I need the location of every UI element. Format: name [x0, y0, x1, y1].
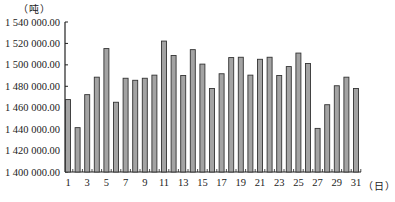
x-tick-label: 1: [65, 177, 70, 188]
bar: [162, 41, 167, 172]
bar: [133, 80, 138, 172]
bar: [200, 64, 205, 172]
x-tick-label: 5: [104, 177, 109, 188]
bar-chart: 1 400 000.001 420 000.001 440 000.001 46…: [0, 0, 395, 202]
bar: [142, 78, 147, 172]
y-axis: 1 400 000.001 420 000.001 440 000.001 46…: [5, 17, 68, 178]
x-tick-label: 19: [236, 177, 247, 188]
bar: [238, 57, 243, 172]
x-tick-label: 31: [351, 177, 362, 188]
bar: [229, 58, 234, 172]
bar: [104, 49, 109, 172]
bar: [267, 57, 272, 172]
bar: [210, 89, 215, 172]
bar: [85, 95, 90, 172]
bar: [248, 75, 253, 172]
y-tick-label: 1 400 000.00: [5, 167, 60, 178]
y-tick-label: 1 540 000.00: [5, 17, 60, 28]
bar: [306, 63, 311, 172]
x-tick-label: 3: [85, 177, 90, 188]
y-tick-label: 1 460 000.00: [5, 102, 60, 113]
y-tick-label: 1 480 000.00: [5, 81, 60, 92]
bar: [152, 75, 157, 172]
bar: [315, 128, 320, 172]
y-tick-label: 1 420 000.00: [5, 145, 60, 156]
bar: [258, 59, 263, 172]
bar: [190, 50, 195, 172]
bar: [334, 86, 339, 172]
bar: [219, 74, 224, 172]
x-tick-label: 11: [159, 177, 169, 188]
bar: [325, 105, 330, 172]
x-tick-label: 9: [142, 177, 147, 188]
x-tick-label: 21: [255, 177, 266, 188]
x-tick-label: 17: [216, 177, 227, 188]
y-tick-label: 1 500 000.00: [5, 59, 60, 70]
bar: [286, 67, 291, 172]
bar: [75, 128, 80, 172]
x-tick-label: 7: [123, 177, 128, 188]
bar: [171, 56, 176, 172]
bar: [354, 89, 359, 172]
bar: [277, 75, 282, 172]
y-tick-label: 1 440 000.00: [5, 124, 60, 135]
bar: [94, 77, 99, 172]
x-tick-label: 15: [197, 177, 208, 188]
x-tick-label: 23: [274, 177, 285, 188]
y-tick-label: 1 520 000.00: [5, 38, 60, 49]
x-tick-label: 27: [312, 177, 323, 188]
x-tick-label: 29: [332, 177, 343, 188]
x-tick-label: 25: [293, 177, 304, 188]
bar: [181, 75, 186, 172]
bar: [114, 102, 119, 172]
bar: [296, 53, 301, 172]
bar: [66, 100, 71, 172]
bar: [344, 77, 349, 172]
x-tick-label: 13: [178, 177, 189, 188]
bar: [123, 78, 128, 172]
bars: [66, 41, 359, 172]
